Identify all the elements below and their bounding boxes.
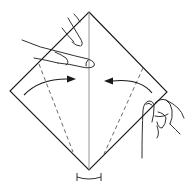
origami-diagram [0, 0, 193, 188]
diagram-canvas [0, 0, 193, 188]
paper-square [10, 12, 167, 170]
angle-marker-icon [77, 173, 101, 181]
